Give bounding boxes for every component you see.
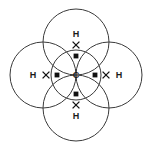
electron-dot-bond-left xyxy=(55,73,60,78)
atom-label-hydrogen-right: H xyxy=(116,70,123,80)
ch4-dot-cross-diagram: C H H H H xyxy=(0,0,154,153)
lewis-structure-figure: C H H H H xyxy=(0,0,154,153)
atom-label-carbon: C xyxy=(73,70,80,80)
atom-label-hydrogen-bottom: H xyxy=(73,111,80,121)
atom-label-hydrogen-left: H xyxy=(30,70,37,80)
electron-dot-bond-bottom xyxy=(74,92,79,97)
atom-label-hydrogen-top: H xyxy=(73,29,80,39)
electron-cross-bond-bottom xyxy=(73,102,80,109)
electron-cross-bond-top xyxy=(73,42,80,49)
electron-dot-bond-right xyxy=(93,73,98,78)
electron-dot-bond-top xyxy=(74,54,79,59)
electron-cross-bond-left xyxy=(43,72,50,79)
electron-cross-bond-right xyxy=(103,72,110,79)
